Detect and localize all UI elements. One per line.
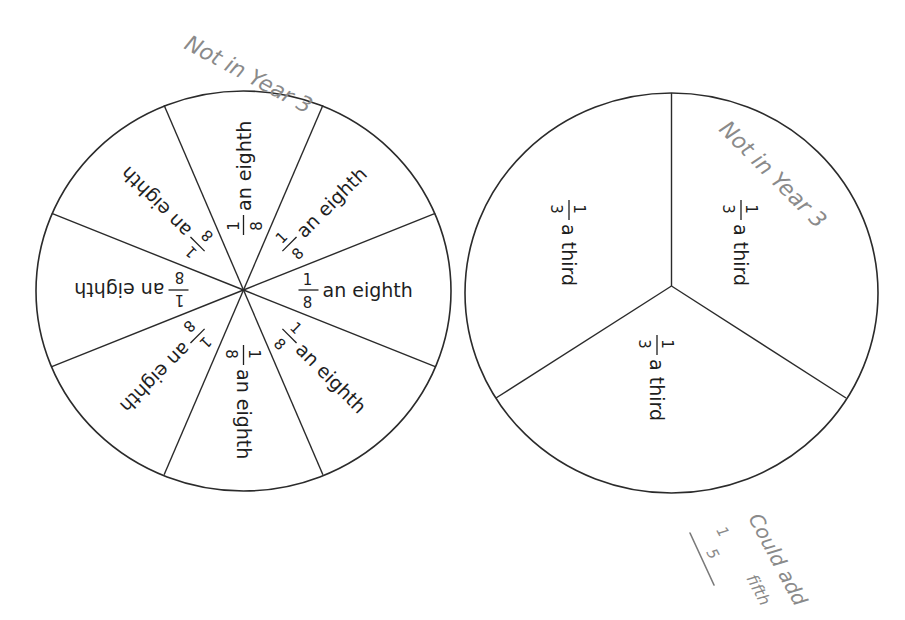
thirds-circle: 13a third13a third13a third <box>465 93 878 493</box>
note-fraction-numerator: 1 <box>712 523 732 540</box>
thirds-fraction-word: a third <box>730 224 752 286</box>
thirds-fraction-denominator: 3 <box>719 204 737 214</box>
thirds-fraction-denominator: 3 <box>547 204 565 214</box>
note-fraction-denominator: 5 <box>702 545 722 562</box>
note-fifth: fifth <box>742 571 774 609</box>
eighths-circle: 18an eighth18an eighth18an eighth18an ei… <box>36 91 451 491</box>
eighths-fraction-denominator: 8 <box>175 268 185 286</box>
thirds-fraction-word: a third <box>558 224 580 286</box>
eighths-fraction-denominator: 8 <box>222 349 240 359</box>
handwritten-note-bottom: Could add fifth 1 5 <box>690 509 812 610</box>
eighths-fraction-numerator: 1 <box>225 221 243 231</box>
thirds-fraction-numerator: 1 <box>658 339 676 349</box>
eighths-fraction-numerator: 1 <box>303 271 313 289</box>
thirds-fraction-numerator: 1 <box>570 204 588 214</box>
thirds-fraction-denominator: 3 <box>635 339 653 349</box>
fraction-worksheet: 18an eighth18an eighth18an eighth18an ei… <box>0 0 905 620</box>
eighths-fraction-word: an eighth <box>323 279 413 301</box>
eighths-fraction-word: an eighth <box>233 369 255 459</box>
thirds-fraction-word: a third <box>646 359 668 421</box>
eighths-fraction-numerator: 1 <box>175 291 185 309</box>
thirds-fraction-numerator: 1 <box>742 204 760 214</box>
eighths-fraction-word: an eighth <box>233 121 255 211</box>
eighths-fraction-denominator: 8 <box>248 221 266 231</box>
eighths-fraction-numerator: 1 <box>245 349 263 359</box>
eighths-fraction-word: an eighth <box>74 279 164 301</box>
eighths-fraction-denominator: 8 <box>303 294 313 312</box>
